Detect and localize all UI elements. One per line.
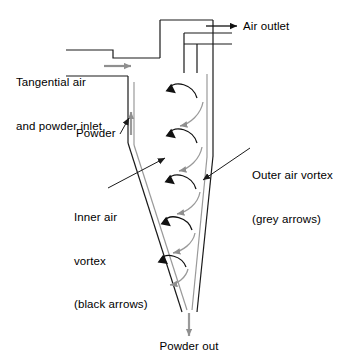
outer-vortex-arrow-2: [179, 147, 202, 171]
outer-air-vortex-label-line1: Outer air vortex: [252, 168, 333, 183]
inner-air-vortex-arrows: [161, 84, 197, 267]
outer-air-vortex-label-line2: (grey arrows): [252, 212, 333, 227]
inner-vortex-arrow-1: [169, 84, 197, 98]
inner-vortex-arrow-3: [168, 175, 196, 189]
cyclone-separator-diagram: Tangential air and powder inlet Air outl…: [0, 0, 344, 362]
inner-air-vortex-label-line2: vortex: [74, 254, 148, 269]
tangential-inlet-label: Tangential air and powder inlet: [16, 46, 102, 162]
inner-air-vortex-label-line3: (black arrows): [74, 297, 148, 312]
inner-vortex-arrow-2: [169, 129, 197, 143]
outer-vortex-arrow-1: [180, 102, 203, 126]
tangential-inlet-label-line1: Tangential air: [16, 75, 102, 90]
outer-air-vortex-label: Outer air vortex (grey arrows): [252, 139, 333, 255]
inner-air-vortex-label-line1: Inner air: [74, 210, 148, 225]
air-outlet-label: Air outlet: [243, 19, 289, 34]
inner-vortex-arrow-4: [164, 217, 192, 230]
outer-vortex-leader: [203, 148, 250, 180]
outer-vortex-arrow-4: [173, 233, 195, 253]
outer-vortex-arrow-3: [177, 192, 200, 214]
powder-out-label: Powder out: [139, 339, 239, 354]
vortex-finder-tube: [184, 33, 232, 73]
inner-air-vortex-label: Inner air vortex (black arrows): [74, 181, 148, 341]
powder-label: Powder: [76, 126, 116, 141]
